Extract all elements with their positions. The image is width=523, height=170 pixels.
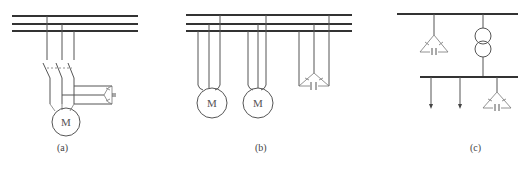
- motor-label-b2: M: [253, 97, 263, 109]
- caption-a: (a): [57, 142, 68, 153]
- caption-b: (b): [255, 142, 267, 153]
- capacitor-compensation-figure: M M M (a) (b) (c): [0, 0, 523, 170]
- diagram-a: [12, 16, 138, 136]
- motor-label-a: M: [61, 116, 71, 128]
- diagram-c: [397, 14, 518, 111]
- caption-c: (c): [470, 142, 481, 153]
- motor-label-b1: M: [207, 97, 217, 109]
